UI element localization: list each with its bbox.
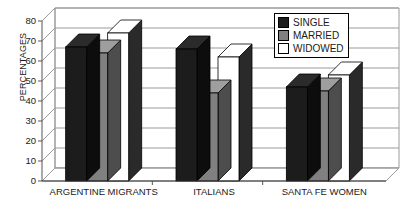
x-axis-category-label: SANTA FE WOMEN <box>282 186 367 197</box>
x-axis-category-label: ARGENTINE MIGRANTS <box>50 186 158 197</box>
chart-legend: SINGLEMARRIEDWIDOWED <box>274 13 349 58</box>
legend-label: WIDOWED <box>293 44 344 54</box>
legend-swatch-icon <box>278 43 289 54</box>
legend-label: SINGLE <box>293 18 330 28</box>
legend-label: MARRIED <box>293 31 339 41</box>
legend-swatch-icon <box>278 17 289 28</box>
legend-swatch-icon <box>278 30 289 41</box>
x-axis-tick-labels: ARGENTINE MIGRANTSITALIANSSANTA FE WOMEN <box>0 186 415 202</box>
bar-chart: PERCENTAGES 80706050403020100 ARGENTINE … <box>0 0 415 205</box>
legend-item-married: MARRIED <box>278 29 344 42</box>
plot-area <box>0 0 415 205</box>
x-axis-category-label: ITALIANS <box>193 186 235 197</box>
legend-item-widowed: WIDOWED <box>278 42 344 55</box>
legend-item-single: SINGLE <box>278 16 344 29</box>
